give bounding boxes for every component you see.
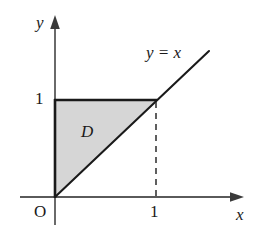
figure-container: y x y = x D 1 1 O xyxy=(0,0,262,243)
y-axis-tick-label-1: 1 xyxy=(35,90,44,107)
origin-label: O xyxy=(34,203,46,220)
x-axis-arrowhead xyxy=(230,192,244,202)
line-equation-label: y = x xyxy=(146,44,181,61)
y-axis-label: y xyxy=(36,14,44,31)
x-axis-label: x xyxy=(236,206,244,223)
x-axis-tick-label-1: 1 xyxy=(150,203,159,220)
region-label-d: D xyxy=(81,123,93,140)
y-axis-arrowhead xyxy=(50,15,60,29)
